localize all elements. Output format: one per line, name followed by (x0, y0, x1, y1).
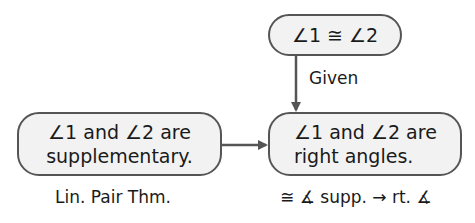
node-text-line2: supplementary. (46, 144, 193, 168)
node-text-line1: ∠1 and ∠2 are (294, 120, 437, 144)
label-linear-pair-theorem: Lin. Pair Thm. (55, 187, 171, 207)
node-supplementary: ∠1 and ∠2 are supplementary. (17, 112, 222, 176)
label-congruent-supp-right: ≅ ∡ supp. → rt. ∡ (280, 187, 432, 207)
node-text: ∠1 ≅ ∠2 (292, 23, 378, 47)
node-right-angles: ∠1 and ∠2 are right angles. (268, 112, 462, 176)
node-angles-congruent: ∠1 ≅ ∠2 (268, 14, 402, 56)
label-given: Given (309, 68, 358, 88)
node-text-line2: right angles. (294, 144, 413, 168)
node-text-line1: ∠1 and ∠2 are (48, 120, 191, 144)
